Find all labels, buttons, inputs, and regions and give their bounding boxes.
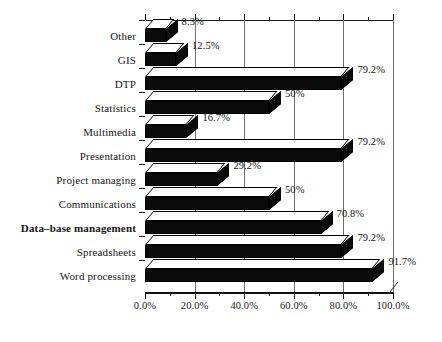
bar-top-face bbox=[145, 91, 277, 101]
tick-top-minor-50 bbox=[269, 17, 270, 20]
xtick-label: 80.0% bbox=[330, 300, 358, 311]
tick-top-major-60 bbox=[294, 14, 295, 20]
tick-major-60 bbox=[294, 292, 295, 299]
bar-front-face bbox=[145, 269, 372, 282]
bar-front-face bbox=[145, 29, 166, 42]
category-label: Data–base management bbox=[21, 222, 136, 234]
tick-minor-10 bbox=[170, 292, 171, 296]
bar-top-face bbox=[145, 163, 226, 173]
bar-value-label: 8.3% bbox=[182, 16, 204, 27]
tick-category bbox=[139, 92, 145, 93]
bar-top-face bbox=[145, 67, 350, 77]
bar-value-label: 16.7% bbox=[202, 112, 230, 123]
bar-value-label: 50% bbox=[285, 88, 305, 99]
tick-minor-70 bbox=[319, 292, 320, 296]
category-label: GIS bbox=[118, 54, 136, 66]
xtick-label: 100.0% bbox=[377, 300, 410, 311]
tick-major-100 bbox=[393, 292, 394, 299]
bar-front-face bbox=[145, 221, 321, 234]
tick-top-major-0 bbox=[145, 14, 146, 20]
bar-top-face bbox=[145, 139, 350, 149]
category-label: Word processing bbox=[60, 270, 136, 282]
bar-front-face bbox=[145, 197, 269, 210]
category-label: Other bbox=[110, 30, 136, 42]
bar-front-face bbox=[145, 245, 341, 258]
tick-category bbox=[139, 212, 145, 213]
tick-major-40 bbox=[244, 292, 245, 299]
xtick-label: 60.0% bbox=[280, 300, 308, 311]
tick-category bbox=[139, 116, 145, 117]
tick-major-20 bbox=[195, 292, 196, 299]
tick-minor-90 bbox=[368, 292, 369, 296]
bar-value-label: 50% bbox=[285, 184, 305, 195]
tick-category bbox=[139, 236, 145, 237]
category-label: Project managing bbox=[56, 174, 136, 186]
bar-value-label: 12.5% bbox=[192, 40, 220, 51]
tick-category bbox=[139, 20, 145, 21]
category-label: Presentation bbox=[80, 150, 136, 162]
tick-major-0 bbox=[145, 292, 146, 299]
gridline-1000 bbox=[393, 20, 394, 292]
xtick-label: 0.0% bbox=[134, 300, 156, 311]
tick-top-minor-70 bbox=[319, 17, 320, 20]
bar-value-label: 79.2% bbox=[357, 64, 385, 75]
tick-minor-50 bbox=[269, 292, 270, 296]
bar-top-face bbox=[145, 211, 329, 221]
tick-category bbox=[139, 164, 145, 165]
bar-front-face bbox=[145, 77, 341, 90]
category-label: Communications bbox=[59, 198, 136, 210]
xtick-label: 40.0% bbox=[230, 300, 258, 311]
category-label: DTP bbox=[115, 78, 136, 90]
category-label: Multimedia bbox=[83, 126, 136, 138]
bar-value-label: 91.7% bbox=[388, 256, 416, 267]
bar-front-face bbox=[145, 125, 186, 138]
category-axis-labels: OtherGISDTPStatisticsMultimediaPresentat… bbox=[0, 0, 136, 342]
tick-top-major-100 bbox=[393, 14, 394, 20]
bar-top-face bbox=[145, 259, 381, 269]
bar-value-label: 79.2% bbox=[357, 136, 385, 147]
tick-category bbox=[139, 44, 145, 45]
tick-top-major-80 bbox=[343, 14, 344, 20]
tick-top-minor-90 bbox=[368, 17, 369, 20]
bar-value-label: 70.8% bbox=[337, 208, 365, 219]
bar-top-face bbox=[145, 235, 350, 245]
bar-front-face bbox=[145, 173, 217, 186]
category-label: Statistics bbox=[95, 102, 136, 114]
bar-value-label: 79.2% bbox=[357, 232, 385, 243]
xtick-label: 20.0% bbox=[181, 300, 209, 311]
tick-top-minor-30 bbox=[219, 17, 220, 20]
bar-top-face bbox=[145, 187, 277, 197]
bar-front-face bbox=[145, 53, 176, 66]
category-label: Spreadsheets bbox=[77, 246, 136, 258]
tick-major-80 bbox=[343, 292, 344, 299]
tick-category bbox=[139, 188, 145, 189]
bar-value-label: 29.2% bbox=[233, 160, 261, 171]
bar-chart-figure: OtherGISDTPStatisticsMultimediaPresentat… bbox=[0, 0, 442, 342]
tick-minor-30 bbox=[219, 292, 220, 296]
tick-category bbox=[139, 68, 145, 69]
tick-category bbox=[139, 260, 145, 261]
tick-top-major-40 bbox=[244, 14, 245, 20]
tick-category bbox=[139, 140, 145, 141]
